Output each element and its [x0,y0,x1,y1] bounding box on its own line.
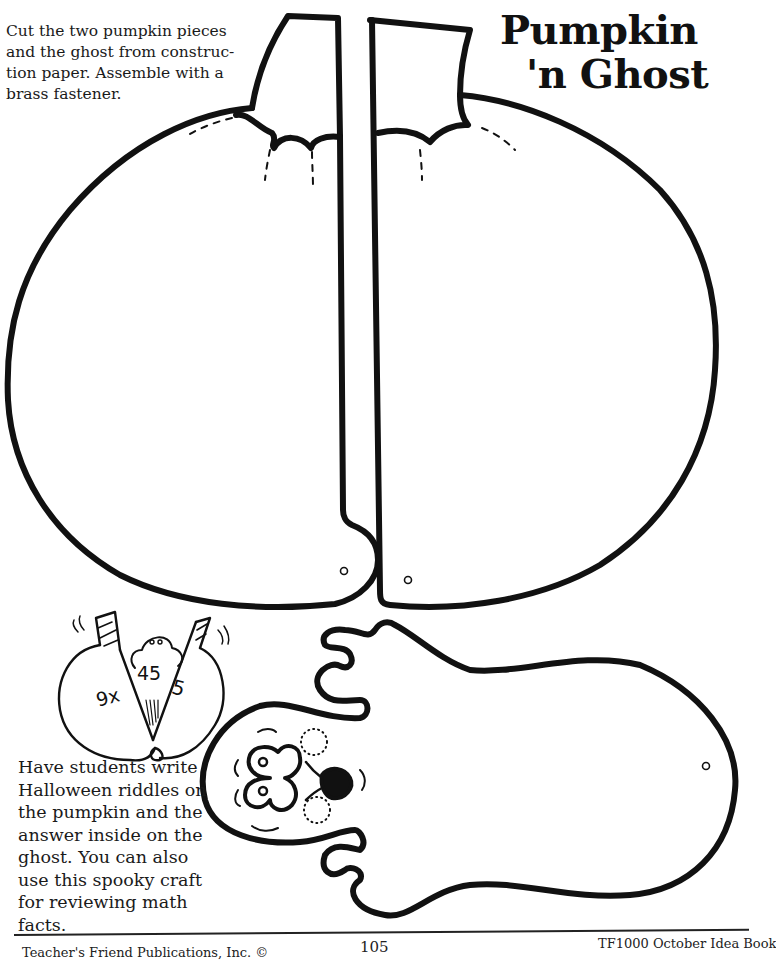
page-number: 105 [360,938,389,956]
tip-line: for reviewing math [18,891,218,914]
tip-line: answer inside on the [18,824,218,847]
title-line-1: Pumpkin [500,8,740,52]
instructions-line: Cut the two pumpkin pieces [6,21,256,42]
tip-line: use this spooky craft [18,869,218,892]
right-pumpkin-piece [370,20,716,607]
footer-publisher: Teacher's Friend Publications, Inc. © [22,945,268,960]
teaching-tip: Have students write Halloween riddles on… [18,756,218,936]
example-assembled-pumpkin [59,612,229,760]
instructions-line: and the ghost from construc- [6,42,256,63]
title-line-2: 'n Ghost [500,52,740,96]
tip-line: ghost. You can also [18,846,218,869]
instructions-line: tion paper. Assemble with a [6,63,256,84]
tip-line: the pumpkin and the [18,801,218,824]
page-title: Pumpkin 'n Ghost [500,8,740,96]
footer-book-title: TF1000 October Idea Book [598,936,776,951]
instructions-line: brass fastener. [6,84,256,105]
ghost-piece [203,622,736,915]
instructions-text: Cut the two pumpkin pieces and the ghost… [6,21,256,105]
example-label-center: 45 [137,662,161,684]
tip-line: Halloween riddles on [18,779,218,802]
tip-line: Have students write [18,756,218,779]
